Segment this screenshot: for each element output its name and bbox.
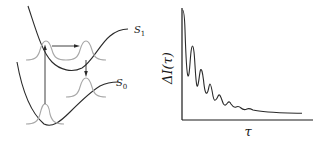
wavepacket-s0-displaced [66,78,106,97]
s1-potential-curve [28,6,128,70]
s0-label: S0 [116,77,127,91]
signal-trace [183,10,303,113]
wavepacket-s1-franck-condon [26,41,66,60]
transient-signal-plot: ΔI(τ) τ [160,8,313,139]
s0-potential-curve [17,62,118,125]
wavepacket-s1-displaced [66,41,106,60]
excitation-arrowhead-icon [43,45,47,51]
wavepacket-s0-ground [26,104,64,124]
x-axis-label: τ [244,124,252,139]
s1-label: S1 [134,24,145,38]
emission-arrowhead-icon [84,71,88,77]
figure: S1 S0 ΔI(τ) τ [0,0,327,143]
y-axis-label: ΔI(τ) [160,52,175,85]
potential-energy-diagram: S1 S0 [17,6,145,125]
propagation-arrowhead-icon [74,44,80,48]
